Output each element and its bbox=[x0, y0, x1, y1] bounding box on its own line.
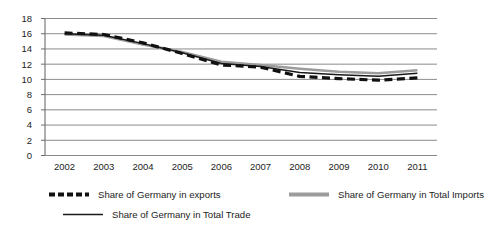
legend-swatch-solid-icon bbox=[62, 209, 104, 220]
x-axis-label: 2009 bbox=[328, 161, 349, 172]
y-axis-label: 16 bbox=[21, 28, 32, 39]
y-axis-label: 10 bbox=[21, 74, 32, 85]
x-axis-label: 2008 bbox=[289, 161, 310, 172]
legend-label-exports: Share of Germany in exports bbox=[98, 189, 221, 200]
y-axis-label: 8 bbox=[27, 89, 32, 100]
line-chart-svg: 024681012141618 200220032004200520062007… bbox=[0, 0, 459, 180]
x-axis-label: 2007 bbox=[250, 161, 271, 172]
x-axis-label: 2006 bbox=[211, 161, 232, 172]
y-axis-label: 18 bbox=[21, 13, 32, 24]
legend-label-total-imports: Share of Germany in Total Imports bbox=[338, 189, 484, 200]
y-axis-label: 0 bbox=[27, 150, 32, 161]
chart-legend: Share of Germany in exports Share of Ger… bbox=[0, 183, 459, 227]
legend-swatch-gray-icon bbox=[288, 189, 330, 200]
x-axis-label: 2002 bbox=[54, 161, 75, 172]
x-axis-label: 2005 bbox=[172, 161, 193, 172]
y-axis-label: 6 bbox=[27, 104, 32, 115]
gridlines bbox=[45, 19, 437, 156]
x-axis-label: 2010 bbox=[368, 161, 389, 172]
y-axis-label: 14 bbox=[21, 43, 32, 54]
x-axis-tick-labels: 2002200320042005200620072008200920102011 bbox=[54, 161, 428, 172]
legend-item-total-trade: Share of Germany in Total Trade bbox=[62, 209, 250, 220]
data-series-lines bbox=[65, 33, 418, 80]
y-axis-tick-labels: 024681012141618 bbox=[21, 13, 32, 161]
legend-item-exports: Share of Germany in exports bbox=[48, 189, 221, 200]
y-axis-line bbox=[41, 19, 45, 156]
y-axis-label: 2 bbox=[27, 135, 32, 146]
x-axis-label: 2011 bbox=[407, 161, 427, 172]
plot-area: 024681012141618 200220032004200520062007… bbox=[0, 0, 459, 180]
y-axis-label: 4 bbox=[27, 119, 32, 130]
legend-swatch-dashed-icon bbox=[48, 189, 90, 200]
x-axis-label: 2003 bbox=[93, 161, 114, 172]
y-axis-label: 12 bbox=[21, 59, 32, 70]
legend-label-total-trade: Share of Germany in Total Trade bbox=[112, 209, 250, 220]
legend-item-total-imports: Share of Germany in Total Imports bbox=[288, 189, 484, 200]
x-axis-label: 2004 bbox=[132, 161, 153, 172]
